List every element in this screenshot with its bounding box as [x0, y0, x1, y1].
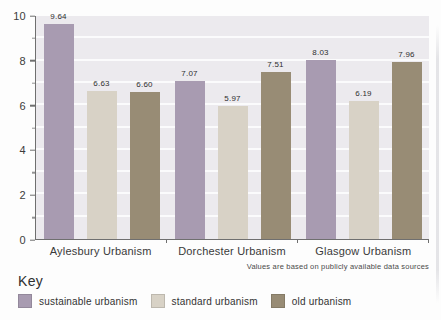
chart-page: 0246810 9.646.636.607.075.977.518.036.19… — [0, 0, 441, 320]
legend-item-sustainable-urbanism: sustainable urbanism — [18, 294, 138, 308]
bar-value-label: 5.97 — [224, 94, 240, 103]
y-tick-label: 0 — [20, 235, 26, 246]
bar-value-label: 8.03 — [312, 48, 328, 57]
y-tick-label: 10 — [13, 11, 26, 22]
y-tick-label: 8 — [20, 55, 26, 66]
bar-old-urbanism: 7.51 — [261, 72, 291, 239]
legend-swatch-sustainable — [18, 294, 32, 308]
bar-value-label: 7.96 — [398, 50, 414, 59]
legend-swatch-standard — [151, 294, 165, 308]
bar-standard-urbanism: 5.97 — [218, 106, 248, 239]
bar-value-label: 7.51 — [267, 60, 283, 69]
x-axis-labels: Aylesbury UrbanismDorchester UrbanismGla… — [35, 245, 429, 257]
page-edge-shadow — [436, 25, 439, 303]
bar-value-label: 6.19 — [355, 89, 371, 98]
x-category-label: Aylesbury Urbanism — [35, 245, 166, 257]
bar-old-urbanism: 6.60 — [130, 92, 160, 239]
bar-group: 9.646.636.60 — [36, 16, 167, 239]
bar-chart: 0246810 9.646.636.607.075.977.518.036.19… — [0, 0, 441, 260]
bar-standard-urbanism: 6.63 — [87, 91, 117, 239]
legend-label: old urbanism — [292, 296, 352, 307]
bar-sustainable-urbanism: 7.07 — [175, 81, 205, 239]
x-category-label: Glasgow Urbanism — [298, 245, 429, 257]
x-axis-tick — [297, 239, 298, 243]
legend-swatch-old — [271, 294, 285, 308]
bar-sustainable-urbanism: 8.03 — [306, 60, 336, 239]
bar-group: 8.036.197.96 — [298, 16, 429, 239]
plot-area: 9.646.636.607.075.977.518.036.197.96 — [35, 16, 429, 240]
bar-value-label: 6.60 — [136, 80, 152, 89]
source-note: Values are based on publicly available d… — [247, 262, 429, 271]
x-category-label: Dorchester Urbanism — [166, 245, 297, 257]
x-axis-tick — [166, 239, 167, 243]
y-tick-label: 2 — [20, 190, 26, 201]
y-tick-label: 6 — [20, 100, 26, 111]
legend-label: standard urbanism — [172, 296, 258, 307]
y-axis: 0246810 — [0, 16, 35, 240]
bar-old-urbanism: 7.96 — [392, 62, 422, 240]
legend-item-old-urbanism: old urbanism — [271, 294, 352, 308]
bar-value-label: 6.63 — [93, 79, 109, 88]
bar-sustainable-urbanism: 9.64 — [44, 24, 74, 239]
legend-item-standard-urbanism: standard urbanism — [151, 294, 258, 308]
legend-label: sustainable urbanism — [39, 296, 138, 307]
bar-group: 7.075.977.51 — [167, 16, 298, 239]
bar-standard-urbanism: 6.19 — [349, 101, 379, 239]
legend: sustainable urbanism standard urbanism o… — [18, 294, 351, 308]
bar-value-label: 9.64 — [50, 12, 66, 21]
bar-value-label: 7.07 — [181, 69, 197, 78]
x-axis-tick — [428, 239, 429, 243]
y-tick-label: 4 — [20, 145, 26, 156]
legend-title: Key — [18, 273, 43, 289]
